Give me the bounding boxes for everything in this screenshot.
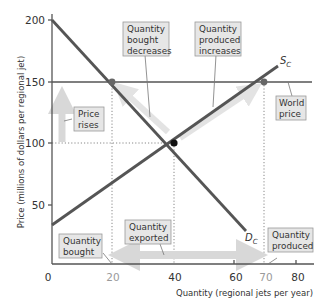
point-quantity-bought	[109, 79, 116, 86]
x-tick-20: 20	[106, 271, 119, 283]
supply-label: SC	[280, 55, 291, 69]
box-price-rises: Price rises	[74, 107, 104, 131]
point-quantity-produced	[261, 79, 268, 86]
equilibrium-point	[170, 139, 177, 146]
supply-move-arrow	[180, 90, 252, 138]
x-tick-40: 40	[168, 271, 181, 283]
world-price-export-chart: 200 150 100 50 0 20 40 60 70 80 Quantity…	[0, 0, 319, 303]
svg-text:Quantity: Quantity	[199, 24, 237, 34]
svg-text:Quantity: Quantity	[63, 236, 101, 246]
box-quantity-bought: Quantity bought	[59, 234, 102, 258]
box-world-price: World price	[276, 96, 306, 120]
y-tick-100: 100	[25, 137, 45, 149]
svg-text:Price: Price	[78, 109, 99, 119]
svg-text:bought: bought	[127, 35, 159, 45]
y-tick-50: 50	[32, 199, 45, 211]
box-quantity-bought-decreases: Quantity bought decreases	[123, 22, 172, 56]
supply-curve	[52, 66, 278, 225]
svg-text:produced: produced	[199, 35, 240, 45]
svg-text:Quantity: Quantity	[127, 24, 165, 34]
svg-text:Quantity: Quantity	[129, 222, 167, 232]
x-tick-80: 80	[291, 271, 304, 283]
y-axis-title: Price (millions of dollars per regional …	[16, 56, 26, 228]
svg-text:increases: increases	[199, 46, 241, 56]
svg-text:World: World	[279, 98, 304, 108]
x-tick-70: 70	[259, 271, 272, 283]
svg-text:decreases: decreases	[127, 46, 172, 56]
svg-text:bought: bought	[63, 247, 95, 257]
box-quantity-exported: Quantity exported	[125, 220, 171, 244]
demand-label: DC	[245, 232, 258, 246]
box-quantity-produced-increases: Quantity produced increases	[195, 22, 241, 56]
svg-text:Quantity: Quantity	[272, 230, 310, 240]
box-quantity-produced: Quantity produced	[268, 228, 313, 252]
y-tick-150: 150	[25, 76, 45, 88]
demand-move-arrow	[122, 90, 168, 132]
svg-text:price: price	[279, 109, 301, 119]
leader-lines	[64, 55, 292, 264]
x-tick-0: 0	[45, 271, 52, 283]
svg-text:rises: rises	[78, 120, 99, 130]
x-axis-title: Quantity (regional jets per year)	[176, 288, 313, 298]
x-tick-60: 60	[229, 271, 242, 283]
y-tick-200: 200	[25, 14, 45, 26]
svg-text:produced: produced	[272, 241, 313, 251]
svg-text:exported: exported	[129, 233, 169, 243]
